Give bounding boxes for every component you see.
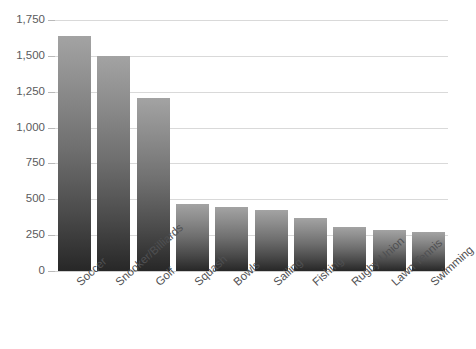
x-axis-label-slot: Golf: [137, 271, 170, 349]
y-axis-tick-label: 1,500: [16, 49, 45, 62]
y-axis-tick-label: 1,250: [16, 85, 45, 98]
y-axis-tick-mark: [48, 56, 55, 57]
y-axis-tick-label: 250: [26, 228, 45, 241]
y-axis-tick-mark: [48, 199, 55, 200]
x-axis-label-slot: Rugby Union: [333, 271, 366, 349]
bar[interactable]: [58, 36, 91, 271]
x-axis-label-slot: Squash: [176, 271, 209, 349]
y-axis-tick-label: 0: [39, 264, 45, 277]
x-axis-label-slot: Soccer: [58, 271, 91, 349]
plot-area: [55, 20, 448, 271]
x-axis-label-slot: Lawn Tennis: [373, 271, 406, 349]
y-axis-tick-mark: [48, 20, 55, 21]
y-axis: 02505007501,0001,2501,5001,750: [0, 20, 55, 271]
x-axis-label-slot: Swimming: [412, 271, 445, 349]
y-axis-tick-mark: [48, 271, 55, 272]
y-axis-tick-label: 1,750: [16, 13, 45, 26]
y-axis-tick-mark: [48, 128, 55, 129]
x-axis-label-slot: Bowls: [215, 271, 248, 349]
x-axis-labels: SoccerSnooker/BilliardsGolfSquashBowlsSa…: [55, 271, 462, 349]
x-axis-label-slot: Snooker/Billiards: [97, 271, 130, 349]
bar[interactable]: [97, 56, 130, 271]
x-axis-label-slot: Fishing: [294, 271, 327, 349]
bar[interactable]: [176, 204, 209, 271]
y-axis-tick-label: 500: [26, 192, 45, 205]
y-axis-tick-mark: [48, 163, 55, 164]
x-axis-label-slot: Sailing: [255, 271, 288, 349]
y-axis-tick-label: 1,000: [16, 121, 45, 134]
bars-group: [55, 20, 448, 271]
bar[interactable]: [255, 210, 288, 271]
y-axis-tick-label: 750: [26, 156, 45, 169]
y-axis-tick-mark: [48, 235, 55, 236]
y-axis-tick-mark: [48, 92, 55, 93]
